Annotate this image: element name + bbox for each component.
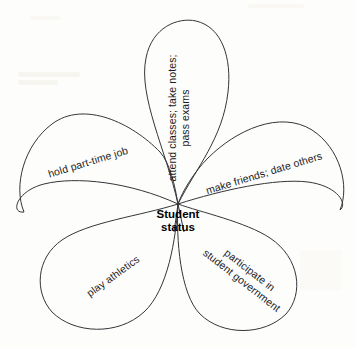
petal-shape-make-friends xyxy=(178,122,344,210)
center-label: Student status xyxy=(157,208,200,234)
petal-label-line1: attend classes; take notes; xyxy=(166,54,178,181)
center-label-line1: Student xyxy=(157,208,200,220)
center-label-line2: status xyxy=(161,221,195,233)
petal-label-attend-classes: attend classes; take notes; pass exams xyxy=(166,54,191,181)
petal-label-line2: pass exams xyxy=(178,89,190,146)
petal-diagram: attend classes; take notes; pass exams h… xyxy=(0,0,356,348)
